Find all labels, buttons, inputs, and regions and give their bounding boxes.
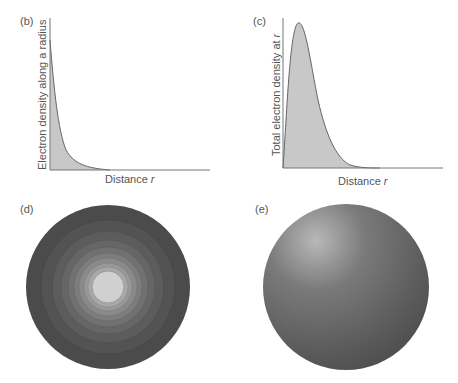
panel-b-plot — [50, 18, 210, 170]
panel-c-plot — [283, 18, 443, 168]
panel-e-sphere — [263, 204, 429, 370]
panel-c-area — [283, 23, 380, 168]
panel-d-contours — [26, 205, 190, 369]
panel-b-area — [50, 40, 110, 170]
figure-graphics — [0, 0, 458, 383]
